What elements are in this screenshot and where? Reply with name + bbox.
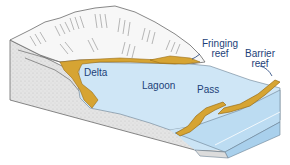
label-barrier-reef: Barrier reef bbox=[240, 49, 280, 69]
coral-reef-diagram: Delta Lagoon Pass Fringing reef Barrier … bbox=[0, 0, 290, 165]
label-fringing-reef-line2: reef bbox=[198, 49, 242, 59]
label-pass: Pass bbox=[197, 85, 219, 95]
label-barrier-reef-line2: reef bbox=[240, 59, 280, 69]
label-delta: Delta bbox=[84, 68, 107, 78]
label-lagoon: Lagoon bbox=[142, 81, 175, 91]
label-fringing-reef: Fringing reef bbox=[198, 39, 242, 59]
